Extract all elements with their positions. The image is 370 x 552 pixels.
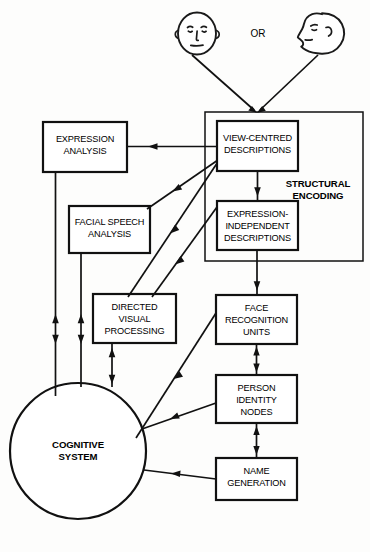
box-facial-speech-analysis-line-1: FACIAL SPEECH [75, 217, 145, 227]
box-expression-independent-descriptions-line-2: INDEPENDENT [225, 221, 290, 231]
profile-face-illustration [298, 13, 344, 54]
node-cognitive-system-line-1: COGNITIVE [52, 439, 105, 450]
edge-view-centred-to-expression-analysis [127, 143, 217, 150]
edge-name-generation-to-cognitive-system [144, 470, 216, 479]
node-cognitive-system-line-2: SYSTEM [59, 451, 98, 462]
edge-frontal-face-to-view-centred [192, 55, 257, 113]
edge-facial-speech-analysis-cognitive-system [78, 253, 85, 387]
box-name-generation[interactable]: NAME GENERATION [216, 458, 297, 500]
edge-person-identity-nodes-to-cognitive-system [142, 403, 216, 429]
box-facial-speech-analysis-line-2: ANALYSIS [88, 229, 131, 239]
box-facial-speech-analysis[interactable]: FACIAL SPEECH ANALYSIS [69, 206, 150, 253]
edge-view-centred-to-facial-speech-analysis [147, 161, 217, 209]
box-person-identity-nodes[interactable]: PERSON IDENTITY NODES [216, 375, 297, 423]
edge-face-recognition-units-person-identity-nodes [253, 344, 259, 375]
box-expression-analysis-line-1: EXPRESSION [56, 134, 114, 144]
box-view-centred-descriptions-line-1: VIEW-CENTRED [223, 133, 292, 143]
box-person-identity-nodes-line-3: NODES [241, 407, 273, 417]
structural-encoding-label-line1: STRUCTURAL [286, 178, 351, 189]
edge-view-centred-to-expression-independent [254, 171, 261, 201]
box-expression-independent-descriptions[interactable]: EXPRESSION- INDEPENDENT DESCRIPTIONS [217, 201, 298, 250]
box-directed-visual-processing-line-3: PROCESSING [105, 326, 165, 336]
box-expression-independent-descriptions-line-3: DESCRIPTIONS [224, 233, 291, 243]
or-label: OR [251, 28, 266, 39]
box-directed-visual-processing[interactable]: DIRECTED VISUAL PROCESSING [93, 294, 176, 343]
frontal-face-illustration [175, 13, 219, 55]
box-expression-independent-descriptions-line-1: EXPRESSION- [227, 209, 288, 219]
structural-encoding-label-line2: ENCODING [293, 190, 344, 201]
box-face-recognition-units[interactable]: FACE RECOGNITION UNITS [216, 295, 297, 344]
edge-expression-independent-to-face-recognition-units [254, 250, 261, 295]
edge-profile-face-to-view-centred [257, 55, 318, 113]
box-view-centred-descriptions[interactable]: VIEW-CENTRED DESCRIPTIONS [217, 121, 298, 171]
edge-expression-analysis-cognitive-system [52, 172, 59, 396]
box-face-recognition-units-line-1: FACE [245, 303, 268, 313]
box-directed-visual-processing-line-2: VISUAL [119, 314, 151, 324]
box-name-generation-line-1: NAME [244, 466, 270, 476]
diagram-canvas: OR STRUCTURAL ENCODING EXPRESSION ANALYS… [0, 0, 370, 552]
box-face-recognition-units-line-2: RECOGNITION [225, 315, 288, 325]
face-recognition-model-diagram: OR STRUCTURAL ENCODING EXPRESSION ANALYS… [0, 0, 370, 552]
edge-expression-independent-to-directed-visual-processing [152, 207, 217, 297]
box-name-generation-line-2: GENERATION [227, 478, 286, 488]
box-person-identity-nodes-line-1: PERSON [238, 383, 276, 393]
box-person-identity-nodes-line-2: IDENTITY [236, 395, 277, 405]
box-expression-analysis[interactable]: EXPRESSION ANALYSIS [43, 122, 127, 172]
box-expression-analysis-line-2: ANALYSIS [63, 146, 106, 156]
box-directed-visual-processing-line-1: DIRECTED [112, 302, 158, 312]
node-cognitive-system[interactable]: COGNITIVE SYSTEM [10, 383, 146, 519]
edge-person-identity-nodes-name-generation [253, 423, 259, 458]
box-face-recognition-units-line-3: UNITS [243, 327, 270, 337]
box-view-centred-descriptions-line-2: DESCRIPTIONS [224, 145, 291, 155]
edge-directed-visual-processing-cognitive-system [109, 343, 116, 387]
